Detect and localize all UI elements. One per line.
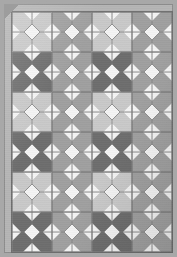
tile-cell [92, 172, 132, 212]
tile-cell [12, 52, 52, 92]
tile-cell [92, 212, 132, 252]
tile-cell [52, 52, 92, 92]
tile-cell [132, 92, 172, 132]
image-canvas [0, 0, 177, 257]
tile-cell [132, 212, 172, 252]
tile-cell [132, 172, 172, 212]
tile-cell [52, 12, 92, 52]
tile-cell [12, 132, 52, 172]
tile-cell [12, 172, 52, 212]
tile-cell [52, 92, 92, 132]
tile-cell [132, 132, 172, 172]
tile-cell [92, 92, 132, 132]
tile-cell [92, 12, 132, 52]
tile-cell [12, 12, 52, 52]
rug-mat [4, 4, 173, 253]
tile-cell [132, 52, 172, 92]
tile-cell [52, 212, 92, 252]
tile-cell [92, 132, 132, 172]
tile-cell [52, 172, 92, 212]
tile-cell [12, 92, 52, 132]
tile-grid [12, 12, 172, 252]
tile-cell [132, 12, 172, 52]
tile-cell [12, 212, 52, 252]
tile-cell [52, 132, 92, 172]
tile-cell [92, 52, 132, 92]
